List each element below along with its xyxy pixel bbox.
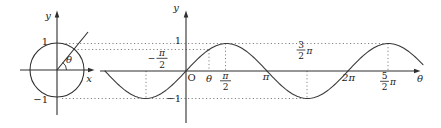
five-halves-pi-numerator: 5 [382, 71, 388, 81]
tick-label-theta: θ [206, 73, 212, 84]
plot-one-label: 1 [175, 35, 181, 46]
three-halves-pi-denominator: 2 [298, 51, 304, 61]
plot-y-axis-label: y [172, 2, 179, 13]
five-halves-pi-multiplier: π [389, 77, 397, 87]
origin-label: O [187, 72, 195, 83]
tick-label-three-halves-pi: 3 2 π [297, 40, 314, 62]
circle-one-label: 1 [42, 36, 48, 47]
sine-plot-group: y θ O 1 −1 θ − π 2 π 2 π 3 2 π 2π [100, 2, 423, 124]
circle-y-axis-arrow-icon [55, 11, 60, 18]
circle-y-axis-label: y [44, 10, 51, 21]
neg-half-pi-numerator: π [158, 48, 166, 58]
three-halves-pi-multiplier: π [306, 46, 314, 56]
five-halves-pi-denominator: 2 [382, 82, 388, 92]
three-halves-pi-numerator: 3 [298, 40, 304, 50]
plot-minus-one-label: −1 [166, 93, 181, 104]
half-pi-denominator: 2 [223, 82, 229, 92]
tick-label-half-pi: π 2 [220, 71, 231, 93]
unit-circle-group: y x 1 −1 θ [20, 10, 95, 115]
circle-theta-label: θ [66, 54, 72, 65]
circle-minus-one-label: −1 [33, 94, 48, 105]
neg-half-pi-sign: − [148, 53, 156, 63]
plot-y-axis-arrow-icon [184, 11, 189, 18]
tick-label-two-pi: 2π [341, 72, 355, 83]
tick-label-pi: π [262, 71, 270, 82]
circle-x-axis-label: x [86, 73, 92, 84]
tick-label-neg-half-pi: − π 2 [148, 48, 168, 70]
plot-x-axis-label: θ [417, 73, 423, 84]
figure-canvas: y x 1 −1 θ y θ O 1 −1 θ − π 2 [0, 0, 441, 128]
sine-unit-circle-figure: y x 1 −1 θ y θ O 1 −1 θ − π 2 [0, 0, 441, 128]
circle-x-axis-arrow-icon [88, 68, 95, 73]
neg-half-pi-denominator: 2 [159, 60, 165, 70]
half-pi-numerator: π [222, 71, 230, 81]
tick-label-five-halves-pi: 5 2 π [380, 71, 397, 92]
